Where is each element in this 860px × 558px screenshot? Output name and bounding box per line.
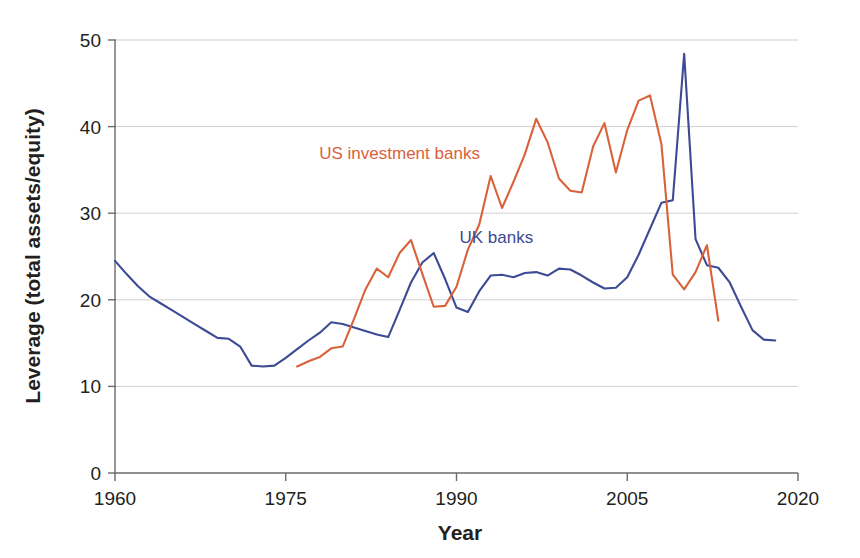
x-tick-label-1990: 1990 <box>435 488 477 509</box>
axes-group <box>115 40 798 473</box>
series-label-uk-banks: UK banks <box>459 228 533 247</box>
chart-page: 0102030405019601975199020052020 UK banks… <box>0 0 860 558</box>
y-tick-label-0: 0 <box>90 463 101 484</box>
y-tick-label-40: 40 <box>80 117 101 138</box>
series-label-us-investment-banks: US investment banks <box>319 144 480 163</box>
tick-marks-group <box>108 40 798 481</box>
y-axis-title: Leverage (total assets/equity) <box>21 108 44 403</box>
x-tick-label-1975: 1975 <box>265 488 307 509</box>
y-tick-label-20: 20 <box>80 290 101 311</box>
y-tick-label-50: 50 <box>80 30 101 51</box>
x-tick-label-1960: 1960 <box>94 488 136 509</box>
tick-labels-group: 0102030405019601975199020052020 <box>80 30 819 509</box>
x-tick-label-2005: 2005 <box>606 488 648 509</box>
x-axis-title: Year <box>438 521 482 544</box>
leverage-line-chart: 0102030405019601975199020052020 UK banks… <box>0 0 860 558</box>
series-line-uk-banks <box>115 54 775 367</box>
y-tick-label-10: 10 <box>80 376 101 397</box>
gridlines-group <box>115 40 798 386</box>
series-labels-group: UK banksUS investment banks <box>319 144 533 247</box>
y-tick-label-30: 30 <box>80 203 101 224</box>
x-tick-label-2020: 2020 <box>777 488 819 509</box>
series-paths-group <box>115 54 775 367</box>
